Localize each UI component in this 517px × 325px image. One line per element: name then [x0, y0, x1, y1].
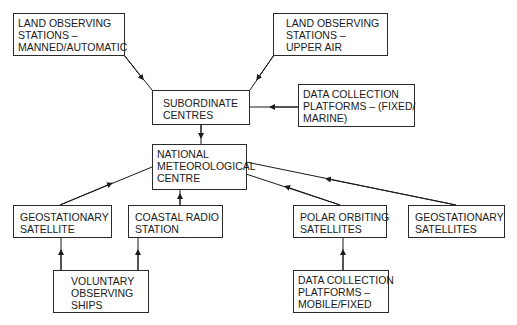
node-label: SATELLITE [20, 223, 105, 235]
node-dcp-mobile-fixed: DATA COLLECTION PLATFORMS – MOBILE/FIXED [293, 270, 389, 313]
node-land-observing-manned: LAND OBSERVING STATIONS – MANNED/AUTOMAT… [13, 13, 125, 56]
node-label: SATELLITES [415, 223, 498, 235]
node-label: PLATFORMS – (FIXED/ [303, 100, 410, 112]
node-label: DATA COLLECTION [303, 88, 410, 100]
node-label: OBSERVING [71, 287, 131, 299]
node-label: CENTRE [157, 172, 242, 184]
node-label: DATA COLLECTION [298, 274, 384, 286]
node-label: POLAR ORBITING [300, 211, 380, 223]
node-label: CENTRES [163, 109, 239, 121]
node-geostationary-satellite: GEOSTATIONARY SATELLITE [13, 205, 112, 238]
node-label: GEOSTATIONARY [415, 211, 498, 223]
node-label: MOBILE/FIXED [298, 298, 384, 310]
node-label: GEOSTATIONARY [20, 211, 105, 223]
node-polar-orbiting-satellites: POLAR ORBITING SATELLITES [293, 205, 387, 238]
node-voluntary-observing-ships: VOLUNTARY OBSERVING SHIPS [53, 270, 149, 313]
node-label: COASTAL RADIO [135, 211, 216, 223]
node-geostationary-satellites: GEOSTATIONARY SATELLITES [408, 205, 505, 238]
node-label: NATIONAL [157, 148, 242, 160]
node-label: UPPER AIR [286, 41, 383, 53]
node-label: STATIONS – [18, 29, 120, 41]
node-dcp-fixed-marine: DATA COLLECTION PLATFORMS – (FIXED/ MARI… [298, 84, 415, 127]
node-label: SHIPS [71, 299, 131, 311]
node-label: STATIONS – [286, 29, 383, 41]
node-label: PLATFORMS – [298, 286, 384, 298]
node-national-meteorological-centre: NATIONAL METEOROLOGICAL CENTRE [152, 144, 247, 190]
node-land-observing-upper-air: LAND OBSERVING STATIONS – UPPER AIR [273, 13, 388, 56]
node-subordinate-centres: SUBORDINATE CENTRES [152, 90, 250, 125]
node-label: LAND OBSERVING [286, 17, 383, 29]
node-label: SATELLITES [300, 223, 380, 235]
node-label: MANNED/AUTOMATIC [18, 41, 120, 53]
node-coastal-radio-station: COASTAL RADIO STATION [128, 205, 223, 238]
node-label: MARINE) [303, 112, 410, 124]
node-label: SUBORDINATE [163, 97, 239, 109]
node-label: STATION [135, 223, 216, 235]
node-label: LAND OBSERVING [18, 17, 120, 29]
node-label: METEOROLOGICAL [157, 160, 242, 172]
node-label: VOLUNTARY [71, 275, 131, 287]
